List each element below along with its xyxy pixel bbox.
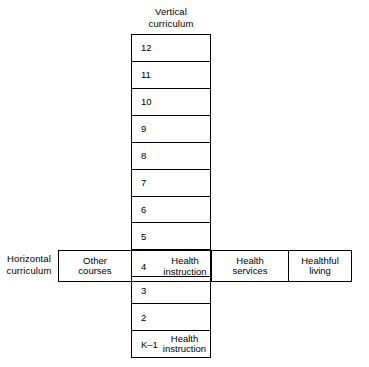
grade-label: 2	[141, 312, 146, 323]
horizontal-cell-text: Healthful living	[301, 256, 339, 277]
grade-row: 11	[132, 62, 210, 89]
grade-row: 9	[132, 116, 210, 143]
grade-row: 7	[132, 170, 210, 197]
vertical-title-line-2: curriculum	[131, 18, 211, 30]
grade-label: 9	[141, 123, 146, 134]
grade-label: K–1	[141, 339, 158, 350]
horizontal-cell-health-services: Health services	[212, 251, 289, 281]
grade-label: 7	[141, 177, 146, 188]
grade-label: 5	[141, 231, 146, 242]
horizontal-curriculum-title: Horizontal curriculum	[2, 253, 56, 277]
horizontal-cell-line-2: courses	[78, 266, 111, 277]
horizontal-cell-line-2: services	[233, 266, 268, 277]
curriculum-diagram: Vertical curriculum 12 11 10 9 8 7 6 5	[0, 0, 369, 367]
grade-row: 12	[132, 35, 210, 62]
horizontal-title-line-1: Horizontal	[2, 253, 56, 265]
grade-row: 6	[132, 197, 210, 224]
grade-row: 8	[132, 143, 210, 170]
horizontal-cell-text: Health instruction	[162, 256, 208, 277]
grade-note-line-2: instruction	[162, 344, 207, 355]
grade-label: 12	[141, 42, 152, 53]
grade-label: 11	[141, 69, 151, 80]
horizontal-cell-health-instruction: 4 Health instruction	[132, 251, 212, 281]
grade-row: 10	[132, 89, 210, 116]
horizontal-cell-line-1: Health	[162, 256, 208, 267]
horizontal-cell-text: Health services	[233, 256, 268, 277]
grade-row: K–1 Health instruction	[132, 331, 210, 357]
horizontal-cell-line-2: instruction	[162, 266, 208, 277]
horizontal-title-line-2: curriculum	[2, 265, 56, 277]
vertical-curriculum-column: 12 11 10 9 8 7 6 5 3 2	[131, 34, 211, 358]
grade-label: 6	[141, 204, 146, 215]
grade-label: 8	[141, 150, 146, 161]
grade-label: 10	[141, 96, 152, 107]
grade-note: Health instruction	[162, 334, 207, 355]
horizontal-cell-healthful-living: Healthful living	[289, 251, 351, 281]
horizontal-cell-text: Other courses	[78, 256, 111, 277]
grade-label-intersection: 4	[141, 261, 146, 272]
horizontal-cell-line-2: living	[301, 266, 339, 277]
vertical-title-line-1: Vertical	[131, 6, 211, 18]
horizontal-cell-other-courses: Other courses	[59, 251, 132, 281]
grade-row: 5	[132, 223, 210, 250]
vertical-curriculum-title: Vertical curriculum	[131, 6, 211, 30]
grade-label: 3	[141, 285, 146, 296]
grade-row: 2	[132, 304, 210, 331]
horizontal-curriculum-band: Other courses 4 Health instruction Healt…	[58, 250, 352, 282]
